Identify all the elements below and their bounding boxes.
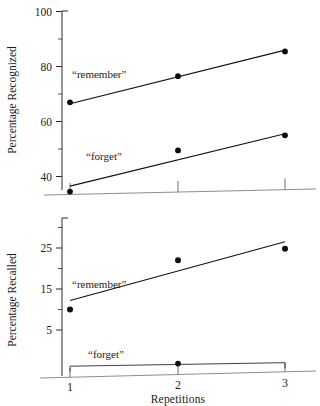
x-axis-title: Repetitions xyxy=(151,393,206,406)
recall-xtick-1: 1 xyxy=(67,380,73,394)
recall-y-major-ticks xyxy=(56,248,62,330)
recall-forget-label: “forget” xyxy=(88,348,124,360)
recall-y-axis-title: Percentage Recalled xyxy=(6,253,19,347)
recall-y-minor-ticks xyxy=(58,228,62,310)
recall-ytick-5: 5 xyxy=(46,324,52,336)
recall-xtick-3: 3 xyxy=(282,376,288,390)
recognition-y-axis-title: Percentage Recognized xyxy=(6,46,19,154)
chart-canvas: 100 80 60 40 Percentage Recognized “reme… xyxy=(0,0,320,406)
figure-two-panel-chart: 100 80 60 40 Percentage Recognized “reme… xyxy=(0,0,320,406)
recall-ytick-15: 15 xyxy=(41,283,53,295)
recognition-x-axis xyxy=(44,189,316,195)
recognition-ytick-80: 80 xyxy=(41,61,53,73)
recognition-ytick-60: 60 xyxy=(41,116,53,128)
panel-recognition: 100 80 60 40 Percentage Recognized “reme… xyxy=(6,6,316,195)
recognition-forget-label: “forget” xyxy=(86,150,122,162)
recall-ytick-25: 25 xyxy=(41,242,53,254)
recognition-x-ticks xyxy=(70,179,285,195)
recognition-remember-label: “remember” xyxy=(72,68,126,80)
recognition-ytick-40: 40 xyxy=(41,171,53,183)
recall-forget-points xyxy=(175,361,181,367)
panel-recall: 25 15 5 Percentage Recalled 1 2 3 Repeti… xyxy=(6,218,316,406)
recall-remember-line xyxy=(70,242,285,301)
recognition-ytick-100: 100 xyxy=(35,6,53,18)
recall-remember-label: “remember” xyxy=(72,278,126,290)
recall-xtick-2: 2 xyxy=(175,378,181,392)
recognition-y-minor-ticks xyxy=(58,39,62,149)
